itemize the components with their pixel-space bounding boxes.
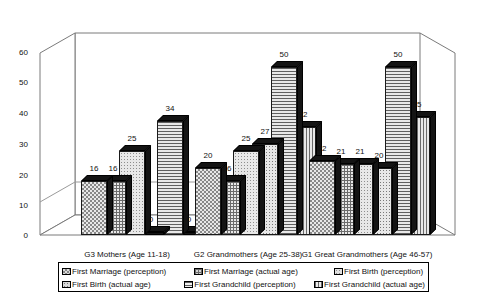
- bar-value-label: 20: [191, 152, 225, 160]
- bar-side-face: [297, 61, 303, 235]
- bar-side-face: [411, 61, 417, 235]
- legend-item-first-birth-perception: First Birth (perception): [334, 268, 423, 276]
- legend-label: First Grandchild (perception): [194, 281, 295, 289]
- bar-value-label: 25: [229, 135, 263, 143]
- bar-side-face: [240, 175, 246, 235]
- category-label-g1: G1 Great Grandmothers (Age 46-57): [262, 250, 472, 259]
- bar-value-label: 16: [210, 165, 244, 173]
- legend-item-first-grandchild-actual: First Grandchild (actual age): [314, 281, 425, 289]
- y-tick-0: 0: [8, 232, 28, 240]
- chart-legend: First Marriage (perception) First Marria…: [58, 262, 429, 292]
- legend-row-2: First Birth (actual age) First Grandchil…: [62, 278, 425, 291]
- y-tick-30: 30: [8, 141, 28, 149]
- bar-side-face: [126, 175, 132, 235]
- plot-area: 1616250340201625275032222121205035: [75, 33, 420, 235]
- bar-value-label: 27: [248, 128, 282, 136]
- bar-side-face: [354, 158, 360, 235]
- y-tick-60: 60: [8, 49, 28, 57]
- legend-item-first-marriage-actual: First Marriage (actual age): [194, 268, 334, 276]
- legend-row-1: First Marriage (perception) First Marria…: [62, 265, 425, 278]
- bar-side-face: [373, 158, 379, 235]
- bar-1-1: [81, 181, 107, 235]
- light-dots-swatch-icon: [334, 268, 343, 275]
- medium-dots-swatch-icon: [62, 281, 71, 288]
- horizontal-lines-swatch-icon: [184, 281, 193, 288]
- bar-front-face: [81, 181, 107, 235]
- bar-side-face: [107, 175, 113, 235]
- legend-item-first-birth-actual: First Birth (actual age): [62, 281, 184, 289]
- bar-2-1: [195, 168, 221, 235]
- y-tick-40: 40: [8, 110, 28, 118]
- legend-item-first-marriage-perception: First Marriage (perception): [62, 268, 194, 276]
- bar-front-face: [195, 168, 221, 235]
- bar-value-label: 50: [267, 51, 301, 59]
- bar-value-label: 34: [153, 105, 187, 113]
- legend-label: First Birth (perception): [344, 268, 423, 276]
- chart-container: 60 50 40 30 20 10 0 16162503402016252750…: [0, 0, 487, 298]
- y-tick-20: 20: [8, 172, 28, 180]
- bar-front-face: [309, 161, 335, 235]
- bar-side-face: [259, 145, 265, 235]
- bar-value-label: 16: [96, 165, 130, 173]
- bar-side-face: [392, 162, 398, 235]
- fine-grid-swatch-icon: [194, 268, 203, 275]
- bar-value-label: 20: [362, 152, 396, 160]
- bar-3-1: [309, 161, 335, 235]
- bar-value-label: 32: [286, 111, 320, 119]
- legend-label: First Marriage (actual age): [204, 268, 298, 276]
- legend-label: First Grandchild (actual age): [324, 281, 425, 289]
- bar-value-label: 35: [400, 101, 434, 109]
- bar-side-face: [278, 138, 284, 235]
- y-tick-10: 10: [8, 202, 28, 210]
- legend-label: First Birth (actual age): [72, 281, 151, 289]
- y-tick-50: 50: [8, 79, 28, 87]
- bar-value-label: 0: [172, 216, 206, 224]
- bar-value-label: 0: [134, 216, 168, 224]
- bar-side-face: [430, 111, 436, 235]
- bar-value-label: 25: [115, 135, 149, 143]
- legend-item-first-grandchild-perception: First Grandchild (perception): [184, 281, 314, 289]
- vertical-lines-swatch-icon: [314, 281, 323, 288]
- bar-value-label: 50: [381, 51, 415, 59]
- bar-side-face: [221, 162, 227, 235]
- bar-side-face: [335, 155, 341, 235]
- checkerboard-swatch-icon: [62, 268, 71, 275]
- legend-label: First Marriage (perception): [72, 268, 166, 276]
